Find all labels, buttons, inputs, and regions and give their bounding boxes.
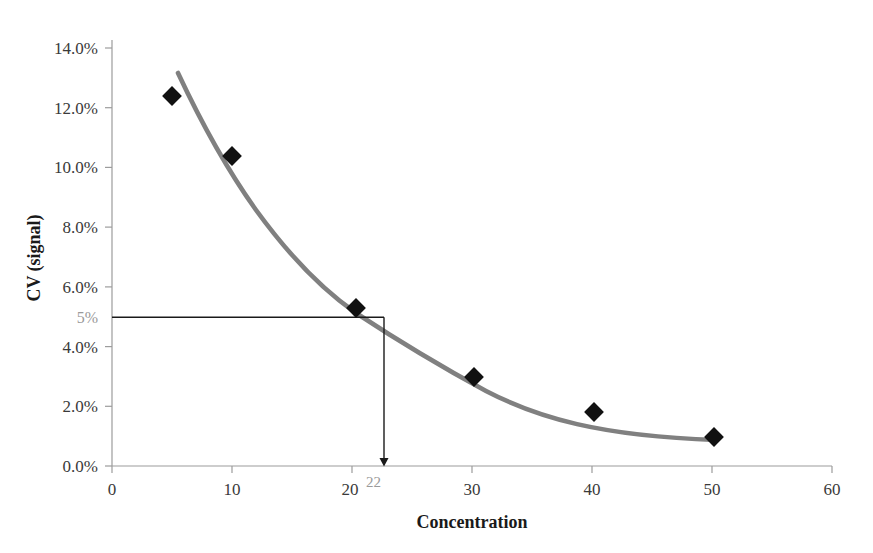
x-tick-label: 30	[464, 480, 481, 499]
x-tick-label: 40	[584, 480, 601, 499]
y-axis-ticks	[105, 48, 112, 466]
x-tick-label: 10	[224, 480, 241, 499]
y-axis-tick-labels: 0.0% 2.0% 4.0% 6.0% 8.0% 10.0% 12.0% 14.…	[54, 39, 98, 476]
chart-canvas: 0.0% 2.0% 4.0% 6.0% 8.0% 10.0% 12.0% 14.…	[0, 0, 873, 553]
y-tick-label: 2.0%	[63, 397, 98, 416]
plot-area	[112, 40, 832, 466]
x-tick-label: 0	[108, 480, 117, 499]
y-tick-label: 10.0%	[54, 158, 98, 177]
x-axis-title: Concentration	[417, 512, 528, 532]
cv-threshold-label: 5%	[77, 309, 98, 326]
x-axis-ticks	[112, 466, 832, 473]
y-tick-label: 4.0%	[63, 338, 98, 357]
x-tick-label: 20	[342, 480, 359, 499]
x-tick-label: 50	[704, 480, 721, 499]
x-axis-tick-labels: 0 10 20 30 40 50 60	[108, 480, 841, 499]
y-tick-label: 12.0%	[54, 99, 98, 118]
y-tick-label: 0.0%	[63, 457, 98, 476]
y-tick-label: 6.0%	[63, 278, 98, 297]
concentration-readout-label: 22	[366, 474, 381, 490]
y-tick-label: 8.0%	[63, 218, 98, 237]
x-tick-label: 60	[824, 480, 841, 499]
chart-figure: 0.0% 2.0% 4.0% 6.0% 8.0% 10.0% 12.0% 14.…	[0, 0, 873, 553]
y-axis-title: CV (signal)	[24, 214, 45, 301]
y-tick-label: 14.0%	[54, 39, 98, 58]
